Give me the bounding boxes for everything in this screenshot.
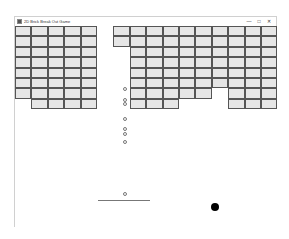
brick: [163, 99, 179, 109]
small-ball: [123, 140, 127, 144]
brick: [195, 57, 211, 67]
brick: [195, 36, 211, 46]
window-controls: — □ ✕: [244, 17, 274, 26]
brick: [212, 57, 228, 67]
brick: [146, 36, 162, 46]
small-ball: [123, 127, 127, 131]
brick: [31, 99, 47, 109]
brick: [212, 47, 228, 57]
brick: [212, 78, 228, 88]
brick: [81, 78, 97, 88]
brick: [179, 26, 195, 36]
brick: [195, 47, 211, 57]
brick: [81, 26, 97, 36]
small-ball: [123, 102, 127, 106]
brick: [31, 88, 47, 98]
minimize-button[interactable]: —: [244, 17, 254, 26]
brick: [48, 26, 64, 36]
close-button[interactable]: ✕: [264, 17, 274, 26]
brick: [228, 68, 244, 78]
brick: [195, 26, 211, 36]
brick: [130, 68, 146, 78]
brick: [15, 57, 31, 67]
small-ball: [123, 117, 127, 121]
brick: [228, 36, 244, 46]
brick: [31, 47, 47, 57]
brick: [228, 57, 244, 67]
game-canvas[interactable]: [15, 26, 277, 227]
brick: [64, 99, 80, 109]
brick: [261, 47, 277, 57]
brick: [113, 26, 129, 36]
brick: [245, 68, 261, 78]
brick: [261, 26, 277, 36]
brick: [31, 68, 47, 78]
game-ball: [211, 203, 219, 211]
brick: [31, 26, 47, 36]
small-ball: [123, 192, 127, 196]
brick: [195, 78, 211, 88]
brick: [64, 26, 80, 36]
brick: [261, 68, 277, 78]
brick: [31, 78, 47, 88]
brick: [163, 88, 179, 98]
small-ball: [123, 132, 127, 136]
maximize-button[interactable]: □: [254, 17, 264, 26]
brick: [245, 99, 261, 109]
brick: [212, 36, 228, 46]
brick: [179, 57, 195, 67]
brick: [48, 78, 64, 88]
window-title: 2D Brick Break Out Game: [24, 19, 70, 24]
brick: [146, 88, 162, 98]
brick: [130, 26, 146, 36]
brick: [64, 68, 80, 78]
brick: [15, 88, 31, 98]
brick: [48, 88, 64, 98]
brick: [245, 36, 261, 46]
brick: [113, 36, 129, 46]
brick: [228, 88, 244, 98]
brick: [228, 99, 244, 109]
brick: [245, 57, 261, 67]
brick: [15, 68, 31, 78]
brick: [81, 36, 97, 46]
brick: [261, 36, 277, 46]
brick: [64, 88, 80, 98]
brick: [64, 47, 80, 57]
brick: [179, 47, 195, 57]
brick: [163, 36, 179, 46]
brick: [15, 47, 31, 57]
brick: [245, 47, 261, 57]
brick: [130, 47, 146, 57]
game-window: 2D Brick Break Out Game — □ ✕: [14, 16, 277, 227]
brick: [48, 57, 64, 67]
brick: [64, 36, 80, 46]
brick: [146, 57, 162, 67]
brick: [146, 78, 162, 88]
brick: [31, 36, 47, 46]
brick: [163, 68, 179, 78]
brick: [15, 78, 31, 88]
brick: [228, 47, 244, 57]
brick: [31, 57, 47, 67]
brick: [15, 36, 31, 46]
brick: [245, 26, 261, 36]
brick: [81, 99, 97, 109]
brick: [228, 78, 244, 88]
brick: [48, 47, 64, 57]
brick: [163, 47, 179, 57]
brick: [163, 57, 179, 67]
app-icon: [17, 19, 22, 24]
brick: [48, 36, 64, 46]
title-bar[interactable]: 2D Brick Break Out Game — □ ✕: [15, 17, 276, 26]
brick: [245, 78, 261, 88]
brick: [81, 57, 97, 67]
brick: [48, 99, 64, 109]
brick: [261, 57, 277, 67]
brick: [146, 68, 162, 78]
brick: [212, 26, 228, 36]
brick: [261, 88, 277, 98]
brick: [81, 47, 97, 57]
brick: [15, 26, 31, 36]
paddle[interactable]: [98, 200, 150, 201]
